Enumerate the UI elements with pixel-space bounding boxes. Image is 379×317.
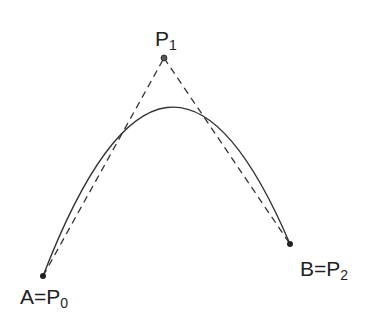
control-line-p0-p1 (43, 58, 164, 276)
point-p1 (161, 55, 167, 61)
label-p1-main: P (155, 27, 169, 50)
label-p0-sub: 0 (60, 295, 68, 311)
label-p0-main: A=P (20, 285, 60, 308)
label-p2-main: B=P (300, 257, 340, 280)
label-p2: B=P2 (300, 258, 348, 282)
bezier-curve (43, 107, 290, 276)
bezier-diagram: P1 A=P0 B=P2 (0, 0, 379, 317)
label-p0: A=P0 (20, 286, 68, 310)
control-line-p1-p2 (164, 58, 290, 244)
point-p0 (40, 273, 46, 279)
point-p2 (287, 241, 293, 247)
label-p1: P1 (155, 28, 177, 52)
label-p1-sub: 1 (169, 37, 177, 53)
label-p2-sub: 2 (340, 267, 348, 283)
